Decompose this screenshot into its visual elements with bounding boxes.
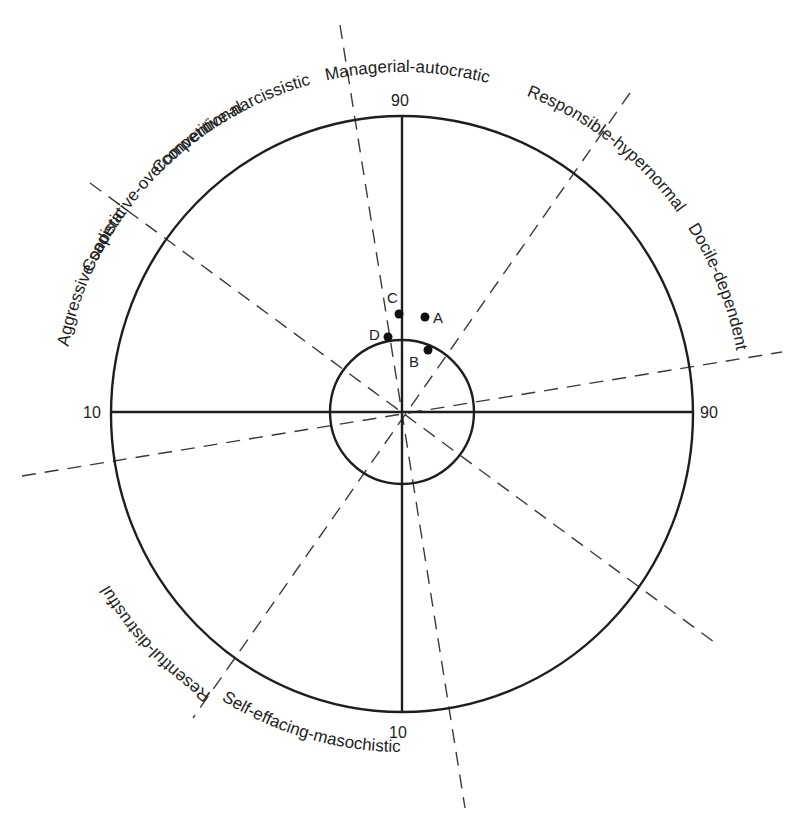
svg-text:B: B	[409, 353, 419, 370]
octant-label-resentful-distrustful: Resentful-distrustful	[96, 583, 213, 706]
octant-label-docile-dependent: Docile-dependent	[684, 220, 751, 352]
divider-line-ne	[193, 93, 630, 718]
octant-label-responsible-hypernormal: Responsible-hypernormal	[525, 82, 690, 216]
circumplex-diagram: 90 10 10 90 Managerial-autocratic Respon…	[0, 0, 802, 831]
axis-label-left: 10	[83, 404, 101, 421]
svg-text:C: C	[387, 289, 398, 306]
axis-label-top: 90	[391, 92, 409, 109]
octant-label-aggressive-sadistic: Aggressive-sadistic	[54, 204, 130, 347]
svg-text:D: D	[369, 326, 380, 343]
axis-label-right: 90	[700, 404, 718, 421]
octant-label-competitive-narcissistic: Competitive-narcissistic	[148, 70, 312, 177]
svg-text:A: A	[433, 309, 443, 326]
data-point-b: B	[409, 346, 433, 371]
data-point-a: A	[421, 309, 444, 326]
